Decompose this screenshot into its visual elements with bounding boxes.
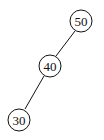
- node-label: 30: [13, 113, 26, 128]
- edge-40-30: [25, 76, 44, 109]
- node-50: 50: [70, 10, 92, 32]
- node-label: 50: [75, 14, 88, 29]
- node-40: 40: [39, 55, 61, 77]
- tree-diagram: 50 40 30: [0, 0, 104, 140]
- node-label: 40: [44, 59, 57, 74]
- node-30: 30: [8, 109, 30, 131]
- edge-50-40: [56, 31, 75, 56]
